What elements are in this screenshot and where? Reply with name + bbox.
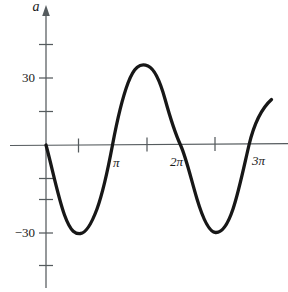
x-axis-line — [10, 144, 288, 146]
x-tick-label-2pi: 2π — [170, 154, 184, 169]
x-tick-label-3pi: 3π — [251, 153, 266, 168]
y-tick-label-minus-30: −30 — [15, 225, 35, 240]
y-tick-label-30: 30 — [22, 70, 35, 85]
y-axis-label: a — [33, 0, 40, 14]
chart-figure: a 30 −30 π 2π 3π — [0, 0, 288, 292]
y-axis-arrow-icon — [42, 5, 50, 16]
x-tick-label-pi: π — [113, 155, 120, 170]
sine-curve — [46, 65, 272, 234]
chart-svg: a 30 −30 π 2π 3π — [0, 0, 288, 292]
